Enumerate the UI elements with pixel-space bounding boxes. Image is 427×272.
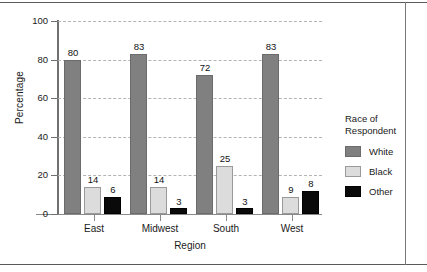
bar-group-midwest: 83 14 3: [130, 21, 190, 214]
legend-title-line2: Respondent: [345, 125, 415, 137]
bar-south-white[interactable]: [196, 75, 213, 214]
legend: Race of Respondent White Black Other: [345, 113, 415, 206]
plot-area: 80 14 6 83 14 3 72 25 3 83 9: [58, 21, 322, 214]
x-tick-mark-west: [292, 214, 293, 221]
legend-item-black[interactable]: Black: [345, 166, 415, 177]
y-tick-mark-80: [51, 60, 58, 61]
y-tick-label-80: 80: [22, 54, 48, 65]
bar-label-midwest-other: 3: [167, 196, 191, 207]
bar-label-east-white: 80: [61, 47, 85, 58]
x-tick-mark-east: [94, 214, 95, 221]
bar-label-west-white: 83: [259, 41, 283, 52]
y-tick-label-100: 100: [22, 15, 48, 26]
bottom-rule: [0, 264, 427, 265]
bar-label-east-other: 6: [101, 184, 125, 195]
y-tick-label-60: 60: [22, 92, 48, 103]
legend-label-black: Black: [369, 166, 392, 177]
y-tick-mark-20: [51, 175, 58, 176]
bar-label-midwest-white: 83: [127, 41, 151, 52]
bar-south-other[interactable]: [236, 208, 253, 214]
legend-title-line1: Race of: [345, 113, 415, 125]
x-tick-label-west: West: [252, 223, 332, 234]
bar-midwest-white[interactable]: [130, 54, 147, 214]
x-tick-mark-midwest: [160, 214, 161, 221]
legend-title: Race of Respondent: [345, 113, 415, 137]
legend-swatch-black-icon: [345, 166, 361, 177]
y-tick-mark-100: [51, 21, 58, 22]
y-tick-label-20: 20: [22, 169, 48, 180]
bar-label-south-other: 3: [233, 196, 257, 207]
legend-label-white: White: [369, 146, 393, 157]
bar-group-south: 72 25 3: [196, 21, 256, 214]
top-rule: [0, 2, 427, 3]
x-tick-mark-south: [226, 214, 227, 221]
legend-label-other: Other: [369, 186, 393, 197]
bar-east-other[interactable]: [104, 197, 121, 214]
bar-east-white[interactable]: [64, 60, 81, 214]
y-tick-mark-40: [51, 137, 58, 138]
x-axis-label: Region: [58, 240, 322, 251]
y-tick-mark-60: [51, 98, 58, 99]
y-tick-label-0: 0: [22, 208, 48, 219]
bar-label-south-black: 25: [213, 153, 237, 164]
y-tick-mark-0: [51, 214, 58, 215]
legend-swatch-white-icon: [345, 146, 361, 157]
bar-group-west: 83 9 8: [262, 21, 322, 214]
bar-group-east: 80 14 6: [64, 21, 124, 214]
bar-label-west-other: 8: [299, 178, 323, 189]
legend-item-white[interactable]: White: [345, 146, 415, 157]
bar-west-other[interactable]: [302, 191, 319, 214]
x-axis-line: [36, 214, 322, 215]
bar-midwest-other[interactable]: [170, 208, 187, 214]
bar-south-black[interactable]: [216, 166, 233, 214]
legend-item-other[interactable]: Other: [345, 186, 415, 197]
figure-frame: Percentage 100 80 60 40 20 0 80 14 6: [0, 0, 427, 272]
bar-east-black[interactable]: [84, 187, 101, 214]
y-tick-label-40: 40: [22, 131, 48, 142]
bar-midwest-black[interactable]: [150, 187, 167, 214]
bar-west-white[interactable]: [262, 54, 279, 214]
bar-west-black[interactable]: [282, 197, 299, 214]
bar-label-midwest-black: 14: [147, 174, 171, 185]
bar-label-south-white: 72: [193, 62, 217, 73]
legend-swatch-other-icon: [345, 186, 361, 197]
